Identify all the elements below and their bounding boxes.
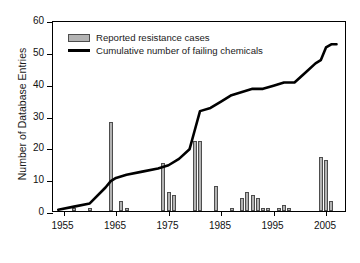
y-tick	[47, 118, 53, 119]
y-tick-label: 50	[14, 47, 44, 58]
x-tick	[221, 211, 222, 216]
x-tick	[64, 211, 65, 216]
x-tick	[274, 211, 275, 216]
x-tick	[326, 211, 327, 216]
y-tick-label: 40	[14, 79, 44, 90]
x-tick-label: 1955	[41, 220, 85, 231]
chart-figure: Number of Database Entries 0102030405060…	[0, 0, 360, 263]
y-tick-label: 0	[14, 206, 44, 217]
y-tick	[47, 86, 53, 87]
x-tick-label: 1975	[146, 220, 190, 231]
y-tick	[47, 181, 53, 182]
chart-legend: Reported resistance cases Cumulative num…	[68, 31, 263, 57]
y-tick	[47, 213, 53, 214]
y-tick-label: 20	[14, 142, 44, 153]
legend-item-reported-resistance-cases: Reported resistance cases	[68, 31, 263, 44]
x-tick	[169, 211, 170, 216]
y-tick-label: 30	[14, 111, 44, 122]
legend-item-cumulative-failing-chemicals: Cumulative number of failing chemicals	[68, 44, 263, 57]
x-tick-label: 1995	[251, 220, 295, 231]
x-tick-label: 1965	[93, 220, 137, 231]
y-tick	[47, 22, 53, 23]
y-tick-label: 10	[14, 174, 44, 185]
bar-swatch-icon	[68, 34, 90, 42]
x-tick-label: 1985	[198, 220, 242, 231]
legend-label: Reported resistance cases	[96, 32, 210, 43]
line-swatch-icon	[68, 49, 90, 52]
y-tick-label: 60	[14, 15, 44, 26]
cumulative-line-path	[58, 44, 336, 210]
x-tick	[116, 211, 117, 216]
y-tick	[47, 149, 53, 150]
x-tick-label: 2005	[303, 220, 347, 231]
legend-label: Cumulative number of failing chemicals	[96, 45, 263, 56]
y-tick	[47, 54, 53, 55]
